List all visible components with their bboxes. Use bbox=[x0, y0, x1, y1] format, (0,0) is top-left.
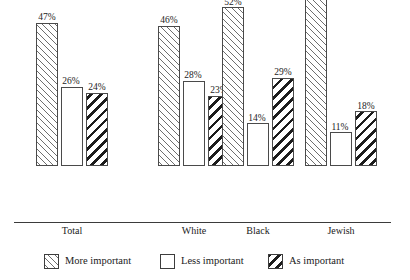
bar-total-less: 26% bbox=[61, 87, 83, 166]
bar-value-label: 11% bbox=[331, 123, 348, 133]
bar-value-label: 18% bbox=[357, 102, 374, 112]
x-axis-baseline bbox=[14, 222, 391, 223]
bar-total-as: 24% bbox=[86, 93, 108, 166]
bar-chart-plot-area: 47%26%24%46%28%23%52%14%29%64%11%18% Tot… bbox=[0, 0, 410, 224]
bar-black-less: 14% bbox=[247, 123, 269, 166]
x-axis-label-jewish: Jewish bbox=[305, 226, 377, 236]
legend-swatch-icon bbox=[160, 254, 175, 269]
bar-black-as: 29% bbox=[272, 78, 294, 166]
legend-swatch-icon bbox=[268, 254, 283, 269]
bar-white-less: 28% bbox=[183, 81, 205, 166]
x-axis-label-white: White bbox=[158, 226, 230, 236]
bar-value-label: 29% bbox=[274, 68, 291, 78]
bar-jewish-more: 64% bbox=[305, 0, 327, 166]
x-axis-label-total: Total bbox=[36, 226, 108, 236]
chart-legend: More importantLess importantAs important bbox=[0, 252, 410, 274]
bar-value-label: 24% bbox=[88, 83, 105, 93]
bar-white-more: 46% bbox=[158, 26, 180, 166]
bar-value-label: 14% bbox=[248, 114, 265, 124]
bar-value-label: 46% bbox=[160, 16, 177, 26]
legend-label: Less important bbox=[181, 256, 244, 267]
legend-label: More important bbox=[65, 256, 131, 267]
bar-black-more: 52% bbox=[222, 7, 244, 166]
bar-total-more: 47% bbox=[36, 23, 58, 166]
bar-jewish-as: 18% bbox=[355, 111, 377, 166]
legend-item-less[interactable]: Less important bbox=[160, 252, 244, 270]
bar-value-label: 26% bbox=[62, 77, 79, 87]
legend-label: As important bbox=[289, 256, 344, 267]
bar-value-label: 28% bbox=[184, 71, 201, 81]
bar-value-label: 52% bbox=[224, 0, 241, 7]
legend-item-more[interactable]: More important bbox=[44, 252, 131, 270]
legend-swatch-icon bbox=[44, 254, 59, 269]
x-axis-label-black: Black bbox=[222, 226, 294, 236]
bar-value-label: 47% bbox=[38, 13, 55, 23]
legend-item-as[interactable]: As important bbox=[268, 252, 344, 270]
bar-jewish-less: 11% bbox=[330, 132, 352, 166]
